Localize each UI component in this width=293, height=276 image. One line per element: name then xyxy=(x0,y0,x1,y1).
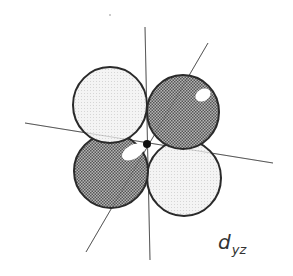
orbital-label-subscript: yz xyxy=(232,242,247,257)
nucleus-dot xyxy=(143,140,151,148)
lobe-upper-left xyxy=(73,67,147,143)
orbital-label-main: d xyxy=(218,230,231,254)
orbital-diagram xyxy=(0,0,293,276)
lobe-lower-right xyxy=(147,140,221,216)
stray-dot xyxy=(109,14,111,16)
orbital-label: dyz xyxy=(218,232,246,252)
lobe-lower-left xyxy=(74,134,148,208)
nucleus xyxy=(143,140,151,148)
stray-dot-mark xyxy=(109,14,111,16)
lobe-lower-right-body xyxy=(147,140,221,216)
lobe-upper-left-body xyxy=(73,67,147,143)
